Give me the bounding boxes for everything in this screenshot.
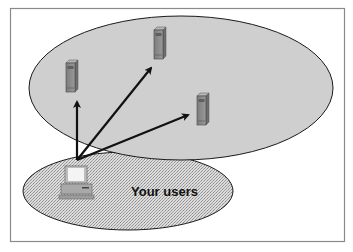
users-region-label: Your users xyxy=(131,184,198,199)
server-icon xyxy=(66,60,78,92)
server-icon xyxy=(197,93,209,125)
users-region-ellipse xyxy=(23,152,233,230)
network-diagram: Your users xyxy=(0,0,353,252)
server-icon xyxy=(154,27,166,59)
